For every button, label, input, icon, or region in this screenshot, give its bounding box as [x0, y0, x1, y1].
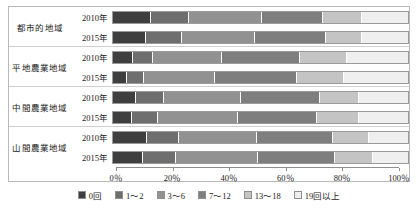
bar-row: 2010年 — [71, 47, 409, 67]
bar-segment — [145, 32, 181, 43]
bar-row: 2015年 — [71, 27, 409, 47]
bar-row: 2015年 — [71, 147, 409, 167]
bar-segment — [368, 132, 408, 143]
chart-group: 平地農業地域2010年2015年 — [9, 47, 409, 87]
bar-segment — [178, 132, 256, 143]
year-label: 2010年 — [71, 51, 112, 63]
group-rows: 2010年2015年 — [71, 7, 409, 47]
bar-segment — [157, 112, 236, 123]
stacked-bar-chart: 都市的地域2010年2015年平地農業地域2010年2015年中間農業地域201… — [0, 0, 418, 218]
bar-segment — [296, 72, 343, 83]
x-tick-label: 20％ — [164, 171, 182, 183]
bar-row: 2010年 — [71, 87, 409, 107]
bar-segment — [126, 72, 143, 83]
legend-item[interactable]: 1～2 — [115, 189, 144, 201]
bar-row: 2015年 — [71, 67, 409, 87]
bar-segment — [214, 72, 296, 83]
bar-segment — [221, 52, 299, 63]
bar-segment — [181, 32, 255, 43]
bar-segment — [372, 152, 408, 163]
bar-segment — [150, 12, 188, 23]
year-label: 2015年 — [71, 31, 112, 43]
chart-legend: 0回1～23～67～1213～1819回以上 — [0, 189, 418, 201]
bar-segment — [132, 52, 152, 63]
legend-label: 3～6 — [168, 189, 186, 201]
bar-segment — [163, 92, 239, 103]
x-tick-label: 80％ — [334, 171, 352, 183]
bar-segment — [316, 112, 358, 123]
bar-segment — [113, 92, 135, 103]
chart-group: 山間農業地域2010年2015年 — [9, 127, 409, 167]
bar-segment — [299, 52, 346, 63]
bar-segment — [358, 112, 408, 123]
stacked-bar — [112, 111, 409, 124]
group-label: 中間農業地域 — [9, 87, 71, 127]
bar-segment — [361, 32, 408, 43]
legend-swatch-icon — [294, 191, 302, 199]
x-tick-label: 40％ — [220, 171, 238, 183]
legend-swatch-icon — [157, 191, 165, 199]
x-axis-labels: 0％20％40％60％80％100％ — [116, 171, 399, 183]
legend-item[interactable]: 3～6 — [157, 189, 186, 201]
legend-label: 13～18 — [255, 189, 281, 201]
bar-segment — [325, 32, 361, 43]
legend-label: 1～2 — [126, 189, 144, 201]
legend-swatch-icon — [244, 191, 252, 199]
stacked-bar — [112, 51, 409, 64]
legend-swatch-icon — [198, 191, 206, 199]
bar-segment — [113, 12, 150, 23]
bar-segment — [146, 132, 177, 143]
group-rows: 2010年2015年 — [71, 87, 409, 127]
x-tick-label: 60％ — [277, 171, 295, 183]
chart-groups: 都市的地域2010年2015年平地農業地域2010年2015年中間農業地域201… — [9, 7, 409, 167]
bar-segment — [143, 72, 214, 83]
year-label: 2015年 — [71, 111, 112, 123]
bar-segment — [334, 152, 373, 163]
group-label: 都市的地域 — [9, 7, 71, 47]
bar-segment — [135, 92, 164, 103]
bar-segment — [113, 52, 132, 63]
x-tick-label: 0％ — [109, 171, 122, 183]
bar-segment — [361, 12, 408, 23]
year-label: 2015年 — [71, 151, 112, 163]
bar-segment — [257, 152, 333, 163]
stacked-bar — [112, 11, 409, 24]
bar-segment — [358, 92, 408, 103]
bar-row: 2015年 — [71, 107, 409, 127]
bar-segment — [188, 12, 262, 23]
chart-group: 中間農業地域2010年2015年 — [9, 87, 409, 127]
legend-swatch-icon — [78, 191, 86, 199]
legend-item[interactable]: 0回 — [78, 189, 102, 201]
bar-segment — [346, 52, 408, 63]
year-label: 2010年 — [71, 11, 112, 23]
legend-item[interactable]: 19回以上 — [294, 189, 341, 201]
bar-segment — [254, 32, 325, 43]
bar-segment — [113, 132, 146, 143]
bar-segment — [113, 32, 145, 43]
legend-label: 0回 — [89, 189, 102, 201]
stacked-bar — [112, 71, 409, 84]
bar-row: 2010年 — [71, 7, 409, 27]
bar-segment — [113, 112, 131, 123]
bar-segment — [152, 52, 221, 63]
x-tick-label: 100％ — [388, 171, 410, 183]
bar-segment — [175, 152, 257, 163]
legend-swatch-icon — [115, 191, 123, 199]
stacked-bar — [112, 131, 409, 144]
bar-row: 2010年 — [71, 127, 409, 147]
bar-segment — [343, 72, 408, 83]
legend-label: 19回以上 — [305, 189, 341, 201]
bar-segment — [113, 72, 126, 83]
bar-segment — [113, 152, 142, 163]
bar-segment — [261, 12, 321, 23]
legend-label: 7～12 — [209, 189, 231, 201]
bar-segment — [131, 112, 157, 123]
legend-item[interactable]: 13～18 — [244, 189, 281, 201]
group-rows: 2010年2015年 — [71, 47, 409, 87]
chart-group: 都市的地域2010年2015年 — [9, 7, 409, 47]
legend-item[interactable]: 7～12 — [198, 189, 231, 201]
year-label: 2015年 — [71, 71, 112, 83]
group-label: 山間農業地域 — [9, 127, 71, 167]
bar-segment — [240, 92, 319, 103]
bar-segment — [256, 132, 332, 143]
